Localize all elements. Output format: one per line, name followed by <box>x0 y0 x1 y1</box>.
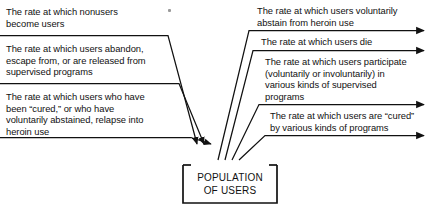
scan-speck <box>168 9 171 12</box>
outflow-label-users-die: The rate at which users die <box>261 36 437 48</box>
outflow-label-participate-supervised-programs: The rate at which users participate (vol… <box>265 56 437 102</box>
outflow-label-voluntary-abstention: The rate at which users voluntarily abst… <box>257 5 437 28</box>
outflow-line-4 <box>239 136 424 161</box>
flow-diagram: The rate at which nonusers become users … <box>0 0 438 214</box>
inflow-label-abandon-supervised-programs: The rate at which users abandon, escape … <box>6 43 182 78</box>
inflow-label-nonusers-become-users: The rate at which nonusers become users <box>6 6 174 29</box>
outflow-label-users-cured: The rate at which users are “cured” by v… <box>270 110 438 133</box>
inflow-line-3 <box>0 138 211 145</box>
population-of-users-label: POPULATION OF USERS <box>183 172 277 197</box>
inflow-label-relapse-into-heroin-use: The rate at which users who have been “c… <box>6 91 188 137</box>
